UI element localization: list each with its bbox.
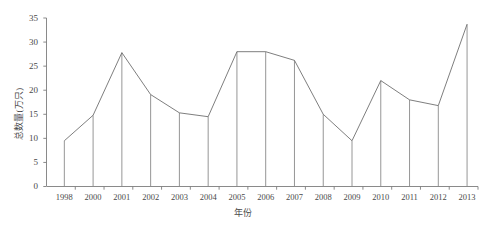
y-tick-label: 35 [8,14,38,23]
y-tick-label: 5 [8,158,38,167]
y-tick-label: 20 [8,86,38,95]
y-tick-label: 0 [8,182,38,191]
axes-group [47,18,479,187]
x-tick-marks [75,187,478,190]
y-tick-label: 15 [8,110,38,119]
y-tick-label: 10 [8,134,38,143]
y-tick-marks [43,18,46,187]
x-tick-label: 2013 [447,193,487,202]
chart-figure: 总数量(万只) 05101520253035 19982000200120022… [0,0,487,228]
y-tick-label: 30 [8,38,38,47]
data-drop-lines [64,24,467,186]
x-axis-label: 年份 [0,206,487,219]
y-tick-label: 25 [8,62,38,71]
